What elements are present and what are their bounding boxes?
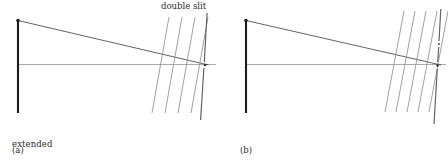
panel-a-wavefront-1	[152, 17, 169, 113]
panel-a-wavefront-2	[165, 17, 182, 113]
panel-a-slit-aperture	[204, 64, 206, 66]
panel-b-screen-segment-top	[439, 9, 441, 41]
double-slit-diagram-svg	[0, 0, 448, 162]
panel-b-group	[244, 9, 448, 124]
panel-a-screen-lower-segment	[201, 68, 204, 120]
panel-b-wavefronts	[385, 11, 448, 112]
panel-b-wavefront-1	[385, 11, 404, 112]
optics-figure: double slit extended source (a) (b)	[0, 0, 448, 162]
double-slit-caption: double slit	[161, 1, 206, 11]
panel-b-wavefront-4	[418, 11, 437, 112]
panel-b-slit-aperture-lower	[436, 64, 438, 66]
panel-a-tag: (a)	[12, 145, 24, 155]
panel-b-wavefront-5	[429, 11, 448, 112]
panel-a-group	[16, 13, 216, 120]
panel-b-tag: (b)	[240, 145, 252, 155]
panel-b-wavefront-3	[407, 11, 426, 112]
panel-a-screen	[201, 13, 208, 120]
panel-a-wavefronts	[152, 17, 208, 113]
panel-a-wavefront-3	[178, 17, 195, 113]
panel-b-wavefront-2	[396, 11, 415, 112]
panel-b-slit-aperture-upper	[438, 43, 440, 45]
extended-source-caption: extended source	[12, 118, 52, 162]
